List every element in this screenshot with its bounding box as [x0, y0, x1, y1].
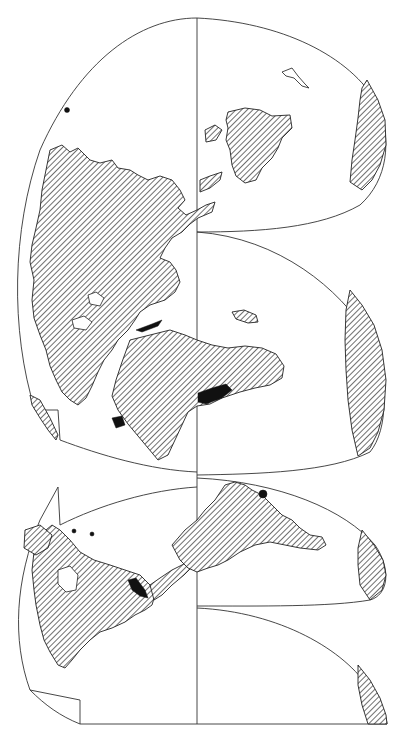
landmass-madagascar [232, 310, 258, 323]
landmass-indonesia [200, 172, 222, 192]
solid-region-dot-north [65, 108, 70, 113]
solid-region-dot-americas-2 [90, 532, 94, 536]
landmass-antarctica-1 [350, 80, 386, 190]
landmass-north-america [32, 525, 155, 668]
solid-region-red-sea [136, 320, 162, 332]
landmass-antarctica-4 [358, 665, 387, 724]
solid-region-dot-americas [72, 529, 76, 533]
world-map [0, 0, 402, 739]
landmass-antarctica-2 [345, 290, 386, 456]
landmass-antarctica-3 [358, 530, 386, 600]
landmass-new-zealand [282, 68, 309, 88]
landmass-europe-west [30, 395, 58, 440]
solid-region-amazon-dot [259, 490, 267, 498]
landmass-australia [226, 108, 292, 183]
landmass-south-america [172, 482, 326, 572]
landmass-new-guinea [205, 125, 222, 142]
